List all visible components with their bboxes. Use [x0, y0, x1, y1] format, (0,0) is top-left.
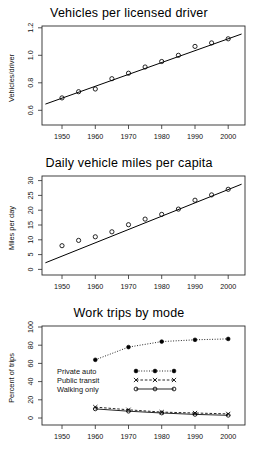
y-axis-title-2: Miles per day: [7, 206, 16, 250]
plot-frame-2: [42, 176, 245, 275]
y-tick-label-1-1: 0.8: [26, 78, 35, 88]
y-tick-label-3-2: 40: [26, 378, 35, 386]
chart-title-3: Work trips by mode: [73, 306, 184, 320]
data-point: [93, 235, 97, 239]
x-tick-label-3-0: 1950: [54, 432, 70, 441]
y-axis-ticks-1: 0.6 0.8 1.0 1.2: [26, 23, 42, 116]
x-tick-label-3-1: 1960: [87, 432, 103, 441]
legend-swatch-walking-only: [134, 387, 176, 391]
chart-title-1: Vehicles per licensed driver: [50, 6, 208, 20]
y-tick-label-2-4: 20: [26, 206, 35, 214]
legend-label-walking-only: Walking only: [57, 385, 99, 394]
x-tick-label-1-5: 2000: [220, 132, 236, 141]
x-tick-label-1-3: 1980: [154, 132, 170, 141]
x-tick-label-1-2: 1970: [121, 132, 137, 141]
chart-svg-1: Vehicles per licensed driver Vehicles/dr…: [0, 0, 258, 152]
x-tick-label-2-0: 1950: [54, 282, 70, 291]
y-tick-label-2-3: 15: [26, 221, 35, 229]
legend-label-private-auto: Private auto: [57, 367, 96, 376]
data-point: [226, 337, 230, 341]
data-point: [193, 198, 197, 202]
y-tick-label-2-5: 25: [26, 191, 35, 199]
legend-swatch-public-transit: [134, 378, 176, 382]
y-tick-label-3-0: 0: [26, 416, 35, 420]
data-point: [143, 217, 147, 221]
y-tick-label-3-4: 80: [26, 341, 35, 349]
y-tick-label-1-2: 1.0: [26, 50, 35, 60]
y-tick-label-3-3: 60: [26, 359, 35, 367]
x-tick-label-1-0: 1950: [54, 132, 70, 141]
x-tick-label-2-3: 1980: [154, 282, 170, 291]
x-tick-label-3-3: 1980: [154, 432, 170, 441]
data-point: [127, 345, 131, 349]
legend-label-public-transit: Public transit: [57, 376, 99, 385]
x-tick-label-3-5: 2000: [220, 432, 236, 441]
chart-svg-2: Daily vehicle miles per capita Miles per…: [0, 150, 258, 302]
chart-panel-work-trips-by-mode: Work trips by mode Percent of trips 0 20…: [0, 300, 258, 452]
x-tick-label-2-4: 1990: [187, 282, 203, 291]
data-point: [160, 340, 164, 344]
chart-svg-3: Work trips by mode Percent of trips 0 20…: [0, 300, 258, 452]
chart-panel-vehicles-per-driver: Vehicles per licensed driver Vehicles/dr…: [0, 0, 258, 152]
x-tick-label-3-2: 1970: [121, 432, 137, 441]
y-axis-ticks-2: 0 5 10 15 20 25 30: [26, 177, 42, 272]
y-tick-label-3-5: 100: [26, 321, 35, 333]
chart-title-2: Daily vehicle miles per capita: [45, 156, 212, 170]
x-tick-label-2-5: 2000: [220, 282, 236, 291]
plot-frame-1: [42, 26, 245, 125]
y-tick-label-3-1: 20: [26, 396, 35, 404]
figure-panel-stack: Vehicles per licensed driver Vehicles/dr…: [0, 0, 258, 456]
x-axis-ticks-2: 1950 1960 1970 1980 1990 2000: [54, 275, 236, 291]
trend-line-2: [45, 184, 241, 263]
y-axis-ticks-3: 0 20 40 60 80 100: [26, 321, 42, 420]
chart-legend-3: Private auto Public transit Walking only: [57, 367, 176, 394]
data-point: [93, 87, 97, 91]
data-point: [110, 230, 114, 234]
data-point: [60, 244, 64, 248]
data-series-2: [60, 187, 230, 248]
x-tick-label-1-4: 1990: [187, 132, 203, 141]
x-axis-ticks-3: 1950 1960 1970 1980 1990 2000: [54, 425, 236, 441]
x-tick-label-2-1: 1960: [87, 282, 103, 291]
y-axis-title-3: Percent of trips: [7, 353, 16, 403]
data-point: [126, 223, 130, 227]
y-tick-label-1-3: 1.2: [26, 23, 35, 33]
data-point: [77, 238, 81, 242]
series-private-auto: [93, 337, 230, 362]
y-tick-label-1-0: 0.6: [26, 105, 35, 115]
y-tick-label-2-1: 5: [26, 253, 35, 257]
data-point: [193, 338, 197, 342]
data-point: [193, 44, 197, 48]
x-tick-label-1-1: 1960: [87, 132, 103, 141]
y-tick-label-2-2: 10: [26, 236, 35, 244]
x-axis-ticks-1: 1950 1960 1970 1980 1990 2000: [54, 125, 236, 141]
y-tick-label-2-0: 0: [26, 267, 35, 271]
chart-panel-daily-vehicle-miles: Daily vehicle miles per capita Miles per…: [0, 150, 258, 302]
x-tick-label-2-2: 1970: [121, 282, 137, 291]
legend-swatch-private-auto: [134, 369, 176, 373]
data-point: [93, 358, 97, 362]
x-tick-label-3-4: 1990: [187, 432, 203, 441]
y-tick-label-2-6: 30: [26, 177, 35, 185]
y-axis-title-1: Vehicles/driver: [7, 53, 16, 102]
